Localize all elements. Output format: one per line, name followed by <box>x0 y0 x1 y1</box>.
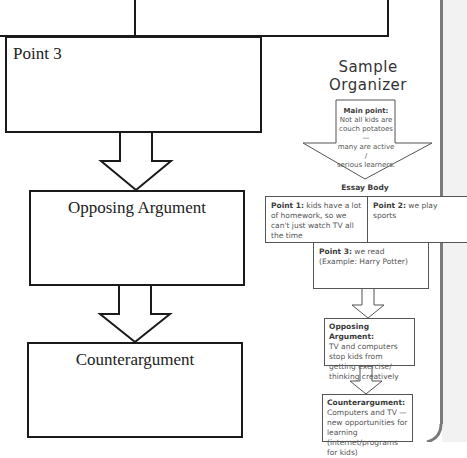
sample-opposing-box: Opposing Argument: TV and computers stop… <box>324 318 415 366</box>
main-point-text: Main point: Not all kids are couch potat… <box>336 107 396 170</box>
opposing-argument-label: Opposing Argument <box>31 198 243 218</box>
essay-body-label: Essay Body <box>330 183 400 192</box>
counterargument-box[interactable]: Counterargument <box>27 342 243 438</box>
sample-point-3-box: Point 3: we read (Example: Harry Potter) <box>313 242 429 289</box>
sample-counter-box: Counterargument: Computers and TV —new o… <box>322 394 413 442</box>
point-3-box[interactable]: Point 3 <box>5 36 262 133</box>
title-line-1: Sample <box>318 58 418 76</box>
sample-point-2-box: Point 2: we play sports <box>367 196 467 243</box>
main-point-line: serious learners. <box>336 161 396 170</box>
title-line-2: Organizer <box>318 76 418 94</box>
main-point-line: many are active / <box>336 143 396 161</box>
sample-organizer-title: Sample Organizer <box>318 58 418 94</box>
main-point-line: Not all kids are <box>336 116 396 125</box>
point-3-sample-text: we read <box>352 247 384 256</box>
opposing-sample-label: Opposing Argument: <box>329 322 410 342</box>
main-point-line: couch potatoes— <box>336 125 396 143</box>
point-3-label: Point 3 <box>13 44 62 64</box>
counter-sample-label: Counterargument: <box>327 398 408 408</box>
counterargument-label: Counterargument <box>29 350 241 370</box>
point-2-label: Point 2: <box>373 201 406 210</box>
counter-sample-text: Computers and TV —new opportunities for … <box>327 408 407 457</box>
opposing-sample-text: TV and computers stop kids from getting … <box>329 342 399 381</box>
main-point-label: Main point: <box>336 107 396 116</box>
point-3-example: (Example: Harry Potter) <box>319 257 423 267</box>
point-1-label: Point 1: <box>271 201 304 210</box>
point-3-sample-label: Point 3: <box>319 247 352 256</box>
sample-point-1-box: Point 1: kids have a lot of homework, so… <box>265 196 368 243</box>
opposing-argument-box[interactable]: Opposing Argument <box>29 190 245 286</box>
